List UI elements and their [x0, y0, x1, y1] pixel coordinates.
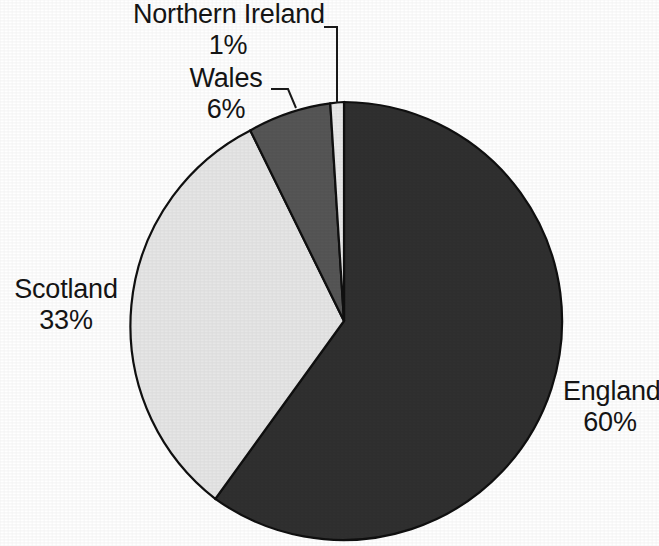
slice-label-scotland-value: 33%	[12, 308, 120, 333]
slice-label-wales-name: Wales	[180, 66, 272, 91]
leader-line-northern-ireland	[324, 27, 337, 103]
slice-label-northern-ireland-value: 1%	[133, 33, 323, 58]
slice-label-england-value: 60%	[563, 410, 657, 435]
pie-chart-figure: Northern Ireland 1% Wales 6% Scotland 33…	[0, 0, 659, 546]
slice-label-england-name: England	[563, 379, 657, 404]
pie-chart-canvas	[0, 0, 659, 546]
slice-label-scotland: Scotland 33%	[12, 277, 120, 333]
slice-label-scotland-name: Scotland	[12, 277, 120, 302]
slice-label-northern-ireland: Northern Ireland 1%	[133, 2, 323, 58]
slice-label-wales-value: 6%	[180, 97, 272, 122]
slice-label-northern-ireland-name: Northern Ireland	[133, 2, 323, 27]
slice-label-england: England 60%	[563, 379, 657, 435]
leader-line-wales	[271, 89, 296, 108]
slice-label-wales: Wales 6%	[180, 66, 272, 122]
